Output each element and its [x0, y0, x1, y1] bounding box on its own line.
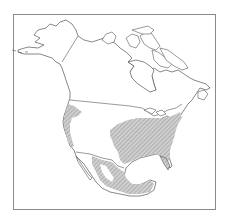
arctic-island: [132, 26, 154, 34]
arctic-island: [126, 34, 140, 48]
arctic-island: [140, 32, 160, 50]
newfoundland: [198, 90, 208, 100]
north-america-range-map: [0, 0, 230, 220]
